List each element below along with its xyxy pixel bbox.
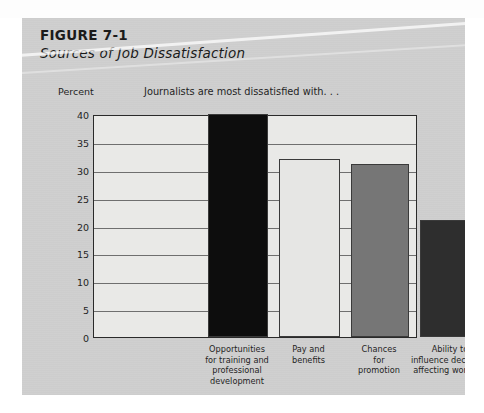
chart-subtitle: Journalists are most dissatisfied with. … — [144, 86, 339, 97]
y-axis-tick-labels: 0510152025303540 — [55, 115, 89, 338]
bar-category-label-line: development — [189, 376, 285, 387]
bar — [351, 164, 409, 337]
y-axis-tick-label: 40 — [59, 110, 89, 121]
y-axis-tick-label: 20 — [59, 221, 89, 232]
bar-category-label-line: Ability to — [401, 344, 465, 355]
y-axis-tick-label: 10 — [59, 277, 89, 288]
y-axis-tick-label: 5 — [59, 305, 89, 316]
y-axis-tick-label: 25 — [59, 193, 89, 204]
bar-category-label-line: professional — [189, 365, 285, 376]
bar — [279, 159, 340, 337]
y-axis-tick-label: 35 — [59, 137, 89, 148]
bar — [208, 114, 268, 337]
plot-frame — [93, 115, 417, 338]
y-axis-title: Percent — [58, 86, 94, 97]
bar-category-label: Ability toinfluence decisionsaffecting w… — [401, 344, 465, 376]
chart-area: Percent Journalists are most dissatisfie… — [22, 18, 465, 395]
bar-category-label-line: affecting work life — [401, 365, 465, 376]
bar-category-label-line: influence decisions — [401, 355, 465, 366]
y-axis-tick-label: 15 — [59, 249, 89, 260]
y-axis-tick-label: 30 — [59, 165, 89, 176]
bar — [420, 220, 465, 337]
figure-panel: FIGURE 7-1 Sources of Job Dissatisfactio… — [22, 18, 465, 395]
page-speck — [0, 0, 484, 18]
y-axis-tick-label: 0 — [59, 333, 89, 344]
